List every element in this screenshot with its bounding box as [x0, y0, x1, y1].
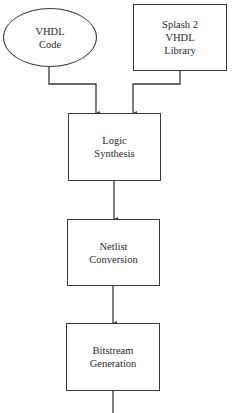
node-label-line: Bitstream: [93, 344, 134, 357]
node-label-line: Synthesis: [94, 147, 134, 160]
node-label-line: VHDL: [35, 25, 64, 38]
node-splash2-vhdl-library: Splash 2 VHDL Library: [133, 4, 227, 71]
node-label-line: Logic: [102, 134, 127, 147]
node-label-line: Code: [39, 38, 61, 51]
edge-splash2-library-to-logic-synthesis: [133, 71, 180, 113]
node-vhdl-code: VHDL Code: [3, 8, 97, 67]
node-label-line: Generation: [90, 357, 137, 370]
node-label-line: Library: [164, 44, 196, 57]
node-netlist-conversion: Netlist Conversion: [67, 219, 160, 286]
node-label-line: VHDL: [165, 31, 194, 44]
node-label-line: Netlist: [100, 240, 128, 253]
node-bitstream-generation: Bitstream Generation: [66, 323, 160, 391]
node-label-line: Splash 2: [162, 18, 198, 31]
node-logic-synthesis: Logic Synthesis: [68, 113, 161, 181]
node-label-line: Conversion: [89, 253, 137, 266]
edge-vhdl-code-to-logic-synthesis: [49, 67, 96, 113]
